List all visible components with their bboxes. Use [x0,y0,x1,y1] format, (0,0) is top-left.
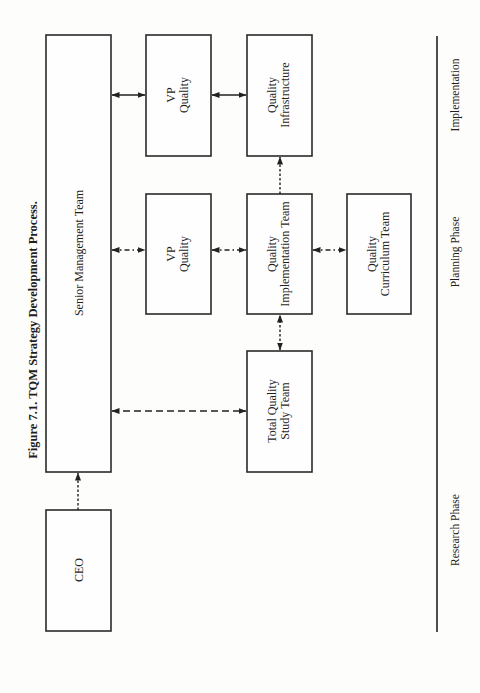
figure-title: Figure 7.1. TQM Strategy Development Pro… [26,201,40,459]
box-quality-implementation-team: Quality Implementation Team [247,194,312,314]
quality-curriculum-line2: Curriculum Team [378,211,392,296]
tqst-line2: Study Team [278,382,292,440]
vp-quality-impl-line1: VP [164,87,178,103]
vp-quality-plan-line1: VP [164,246,178,262]
quality-impl-team-line2: Implementation Team [278,201,292,307]
vp-quality-impl-line2: Quality [177,77,191,113]
box-ceo: CEO [46,510,111,631]
phase-planning: Planning Phase [449,217,462,288]
senior-management-label: Senior Management Team [72,189,86,316]
tqst-line1: Total Quality [265,379,279,442]
box-vp-quality-planning: VP Quality [146,194,211,314]
box-vp-quality-implementation: VP Quality [146,35,211,156]
box-quality-curriculum-team: Quality Curriculum Team [347,194,411,314]
quality-infrastructure-line1: Quality [265,77,279,113]
ceo-label: CEO [72,558,86,582]
phase-research: Research Phase [449,494,461,566]
quality-curriculum-line1: Quality [365,236,379,272]
tqm-diagram: Figure 7.1. TQM Strategy Development Pro… [0,0,480,693]
vp-quality-plan-line2: Quality [177,236,191,272]
box-senior-management-team: Senior Management Team [46,35,111,472]
quality-infrastructure-line2: Infrastructure [278,62,292,127]
box-total-quality-study-team: Total Quality Study Team [247,351,312,472]
phase-implementation: Implementation [449,58,462,131]
quality-impl-team-line1: Quality [265,236,279,272]
box-quality-infrastructure: Quality Infrastructure [247,35,312,156]
